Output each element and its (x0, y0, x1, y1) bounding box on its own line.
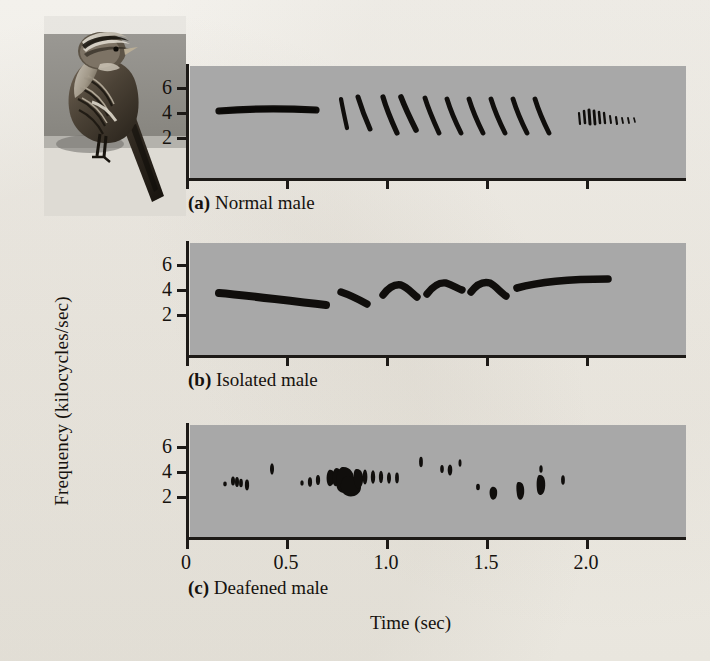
panel-b-ytick-2 (177, 314, 186, 317)
panel-b-caption: (b) Isolated male (188, 369, 318, 391)
panel-c-xtick-label-15: 1.5 (461, 551, 511, 574)
panel-c-x-axis (186, 537, 686, 540)
panel-c-ytick-4 (177, 471, 186, 474)
panel-c-ytick-6 (177, 446, 186, 449)
panel-a-ytick-label-4: 4 (148, 101, 172, 124)
panel-a-ytick-2 (177, 137, 186, 140)
panel-c-ytick-label-2: 2 (148, 485, 172, 508)
panel-c-spectrogram (190, 425, 686, 537)
panel-c-xtick-10 (386, 539, 389, 549)
panel-a-x-axis (186, 178, 686, 181)
y-axis-label: Frequency (kilocycles/sec) (51, 251, 73, 551)
panel-c-caption: (c) Deafened male (188, 577, 328, 599)
panel-b-ytick-4 (177, 289, 186, 292)
panel-c-xtick-label-0: 0 (161, 551, 211, 574)
panel-b-xtick-0 (186, 357, 189, 366)
panel-c-ytick-label-6: 6 (148, 435, 172, 458)
panel-c-xtick-0 (186, 539, 189, 549)
panel-a-ytick-4 (177, 112, 186, 115)
panel-b-xtick-10 (386, 357, 389, 366)
panel-b-ytick-label-2: 2 (148, 303, 172, 326)
panel-b-ytick-6 (177, 264, 186, 267)
panel-c-xtick-label-10: 1.0 (361, 551, 411, 574)
panel-b-tag: (b) (188, 369, 211, 390)
panel-c-xtick-15 (486, 539, 489, 549)
panel-a-ytick-label-2: 2 (148, 126, 172, 149)
panel-b-ytick-label-6: 6 (148, 253, 172, 276)
panel-c-ytick-2 (177, 496, 186, 499)
panel-b-xtick-05 (286, 357, 289, 366)
panel-a-xtick-20 (586, 180, 589, 189)
panel-a-ytick-label-6: 6 (148, 76, 172, 99)
panel-b-xtick-20 (586, 357, 589, 366)
panel-c-xtick-label-20: 2.0 (561, 551, 611, 574)
panel-a-tag: (a) (188, 192, 210, 213)
panel-c-xtick-20 (586, 539, 589, 549)
panel-c-xtick-05 (286, 539, 289, 549)
figure-root: Frequency (kilocycles/sec) (0, 0, 710, 661)
panel-a-ytick-6 (177, 87, 186, 90)
panel-c-label: Deafened male (214, 577, 328, 598)
panel-c-ytick-label-4: 4 (148, 460, 172, 483)
panel-c-xtick-label-05: 0.5 (261, 551, 311, 574)
panel-b-xtick-15 (486, 357, 489, 366)
panel-b-ytick-label-4: 4 (148, 278, 172, 301)
panel-a: 6 4 2 (a) Normal male (186, 66, 686, 184)
panel-a-caption: (a) Normal male (188, 192, 315, 214)
panel-a-label: Normal male (215, 192, 315, 213)
panel-b-spectrogram (190, 243, 686, 355)
panel-a-xtick-0 (186, 180, 189, 189)
panel-c: 6 4 2 0 0.5 1.0 1.5 2.0 (c) Deafened mal… (186, 425, 686, 543)
panel-b: 6 4 2 (b) Isolated male (186, 243, 686, 361)
panel-a-xtick-10 (386, 180, 389, 189)
panel-b-x-axis (186, 355, 686, 358)
panel-b-label: Isolated male (216, 369, 318, 390)
panel-c-plot-area (190, 425, 686, 537)
panel-c-tag: (c) (188, 577, 209, 598)
panel-a-plot-area (190, 66, 686, 178)
panel-c-y-axis (186, 423, 189, 539)
panel-a-spectrogram (190, 66, 686, 178)
panel-a-y-axis (186, 64, 189, 180)
x-axis-label: Time (sec) (370, 612, 451, 634)
panel-b-y-axis (186, 241, 189, 357)
panel-a-xtick-15 (486, 180, 489, 189)
panel-b-plot-area (190, 243, 686, 355)
panel-a-xtick-05 (286, 180, 289, 189)
